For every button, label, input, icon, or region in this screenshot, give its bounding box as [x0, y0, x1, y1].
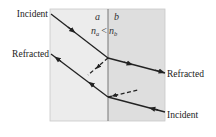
label-incident-bottom-right: Incident	[167, 110, 198, 120]
medium-a-label: a	[95, 11, 100, 22]
label-incident-top-left: Incident	[17, 9, 48, 19]
label-refracted-left: Refracted	[12, 49, 49, 59]
label-refracted-right: Refracted	[167, 69, 204, 79]
medium-b-label: b	[114, 11, 119, 22]
refraction-diagram: a b na<nb Incident Refracted Refracted I…	[0, 0, 216, 137]
index-relation: na<nb	[91, 25, 118, 37]
